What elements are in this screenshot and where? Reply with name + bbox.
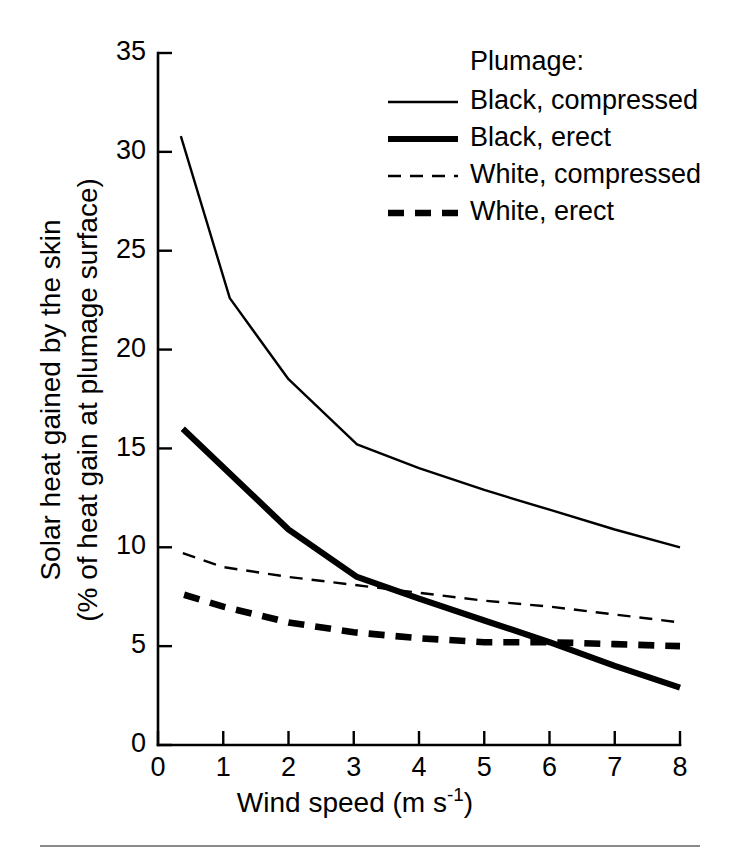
y-tick-label: 15 xyxy=(116,432,146,462)
x-tick-label: 7 xyxy=(607,752,622,782)
legend-entries: Black, compressedBlack, erectWhite, comp… xyxy=(388,85,701,226)
x-tick-label: 3 xyxy=(346,752,361,782)
x-axis-title-superscript: -1 xyxy=(447,784,464,805)
x-axis-title: Wind speed (m s-1) xyxy=(237,784,473,818)
x-axis-title-base: Wind speed (m s xyxy=(237,787,447,818)
series-thick-solid xyxy=(183,429,680,688)
y-axis-title: Solar heat gained by the skin (% of heat… xyxy=(35,178,103,622)
y-tick-label: 30 xyxy=(116,135,146,165)
y-axis-tick-labels: 05101520253035 xyxy=(116,36,146,758)
x-tick-label: 8 xyxy=(672,752,687,782)
x-axis-tick-labels: 012345678 xyxy=(150,752,687,782)
y-axis-title-line2: (% of heat gain at plumage surface) xyxy=(72,178,103,622)
x-tick-label: 5 xyxy=(477,752,492,782)
x-tick-label: 2 xyxy=(281,752,296,782)
y-tick-label: 5 xyxy=(131,629,146,659)
legend-title: Plumage: xyxy=(470,46,584,76)
y-axis-ticks xyxy=(158,53,172,745)
y-tick-label: 35 xyxy=(116,36,146,66)
x-axis: 012345678 xyxy=(150,731,687,782)
legend: Plumage: Black, compressedBlack, erectWh… xyxy=(388,46,701,226)
x-axis-title-tail: ) xyxy=(464,787,473,818)
legend-label: White, compressed xyxy=(470,159,701,189)
y-tick-label: 20 xyxy=(116,333,146,363)
x-axis-ticks xyxy=(158,731,680,745)
footer-divider xyxy=(40,845,700,847)
figure-container: 05101520253035 012345678 Plumage: Black,… xyxy=(0,0,730,867)
series-thin-dashed xyxy=(183,553,680,622)
y-tick-label: 25 xyxy=(116,234,146,264)
x-tick-label: 1 xyxy=(216,752,231,782)
legend-label: White, erect xyxy=(470,196,615,226)
legend-label: Black, compressed xyxy=(470,85,698,115)
x-tick-label: 6 xyxy=(542,752,557,782)
legend-label: Black, erect xyxy=(470,122,612,152)
y-axis-title-line1: Solar heat gained by the skin xyxy=(35,219,66,580)
x-tick-label: 0 xyxy=(150,752,165,782)
y-axis: 05101520253035 xyxy=(116,36,172,758)
x-axis-title-text: Wind speed (m s-1) xyxy=(237,784,473,818)
line-chart: 05101520253035 012345678 Plumage: Black,… xyxy=(0,0,730,867)
y-tick-label: 0 xyxy=(131,728,146,758)
y-tick-label: 10 xyxy=(116,530,146,560)
x-tick-label: 4 xyxy=(411,752,426,782)
